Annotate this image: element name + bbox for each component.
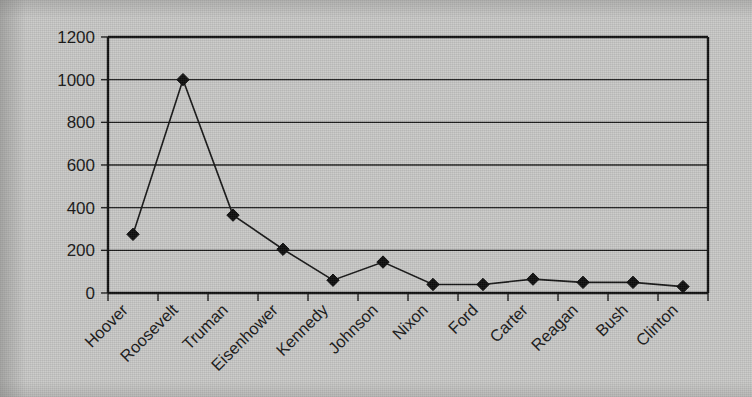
x-label-ford: Ford [444,300,481,337]
data-point-reagan [577,276,589,288]
data-point-roosevelt [177,73,189,85]
data-point-markers [127,73,689,292]
data-point-ford [477,278,489,290]
data-point-nixon [427,278,439,290]
y-tick-label-1000: 1000 [57,71,95,90]
data-point-carter [527,273,539,285]
data-point-eisenhower [277,243,289,255]
y-axis-tick-labels: 020040060080010001200 [57,28,95,303]
data-point-truman [227,209,239,221]
data-point-johnson [377,256,389,268]
series-polyline [133,80,683,287]
x-axis-category-labels: HooverRooseveltTrumanEisenhowerKennedyJo… [81,300,681,374]
y-tick-label-600: 600 [67,156,95,175]
gridlines [108,37,708,250]
x-label-bush: Bush [592,300,631,339]
chart-figure: 020040060080010001200 HooverRooseveltTru… [0,0,752,397]
data-point-bush [627,276,639,288]
x-label-carter: Carter [486,300,532,346]
y-tick-label-800: 800 [67,113,95,132]
x-axis-tick-marks [108,293,708,301]
data-point-clinton [677,280,689,292]
y-tick-label-400: 400 [67,199,95,218]
x-label-kennedy: Kennedy [272,300,331,359]
y-tick-label-0: 0 [86,284,95,303]
x-label-reagan: Reagan [528,300,582,354]
line-chart: 020040060080010001200 HooverRooseveltTru… [0,0,752,397]
data-series-line [133,80,683,287]
x-label-clinton: Clinton [632,300,681,349]
x-label-johnson: Johnson [324,300,381,357]
x-label-nixon: Nixon [389,300,432,343]
y-tick-label-1200: 1200 [57,28,95,47]
y-tick-label-200: 200 [67,241,95,260]
x-label-hoover: Hoover [81,300,132,351]
data-point-kennedy [327,274,339,286]
data-point-hoover [127,228,139,240]
